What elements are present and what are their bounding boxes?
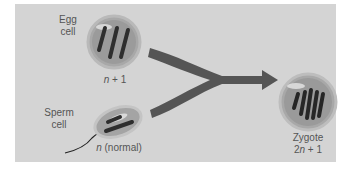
zygote-ploidy-rest: + 1 xyxy=(305,144,322,155)
egg-ploidy-rest: + 1 xyxy=(109,74,126,85)
sperm-ploidy-rest: (normal) xyxy=(102,142,142,153)
sperm-label-line1: Sperm xyxy=(34,107,84,119)
egg-label-line2: cell xyxy=(48,26,88,38)
egg-cell xyxy=(88,16,140,68)
egg-cell-label: Egg cell xyxy=(48,14,88,38)
zygote-label: Zygote 2n + 1 xyxy=(283,132,333,156)
egg-label-line1: Egg xyxy=(48,14,88,26)
egg-ploidy: n + 1 xyxy=(90,74,140,86)
sperm-label-line2: cell xyxy=(34,119,84,131)
sperm-ploidy: n (normal) xyxy=(84,142,154,154)
zygote-cell xyxy=(280,74,336,130)
zygote-ploidy: 2n + 1 xyxy=(283,144,333,156)
zygote-title: Zygote xyxy=(283,132,333,144)
sperm-cell-label: Sperm cell xyxy=(34,107,84,131)
fertilization-arrow xyxy=(148,48,278,118)
